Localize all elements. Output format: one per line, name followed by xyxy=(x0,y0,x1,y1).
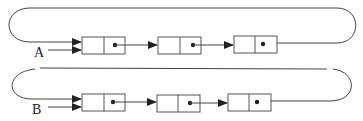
list-b: B xyxy=(12,68,351,117)
list-b-label: B xyxy=(32,102,41,117)
pointer-dot-icon xyxy=(255,100,259,104)
list-a-node-3 xyxy=(234,36,277,53)
list-b-node-3 xyxy=(228,94,271,111)
list-a: A xyxy=(9,8,356,60)
circular-linked-lists-diagram: A B xyxy=(0,0,363,121)
pointer-dot-icon xyxy=(261,42,265,46)
list-a-label: A xyxy=(34,45,45,60)
